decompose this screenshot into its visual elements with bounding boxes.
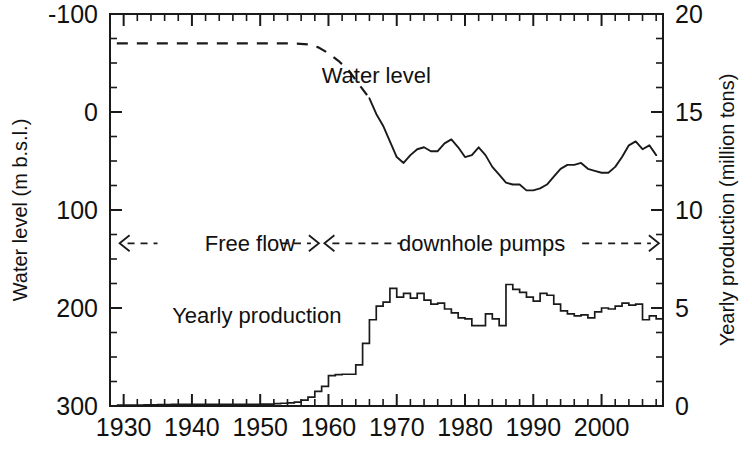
x-tick-label: 1990 <box>505 413 561 441</box>
y-tick-label-right: 0 <box>675 392 689 420</box>
x-tick-label: 2000 <box>574 413 630 441</box>
y-tick-label-left: 100 <box>56 196 98 224</box>
downhole-pumps-label: downhole pumps <box>399 231 565 256</box>
x-tick-label: 1970 <box>369 413 425 441</box>
y-tick-label-left: 0 <box>84 98 98 126</box>
y-axis-left-title: Water level (m b.s.l.) <box>9 119 31 302</box>
x-tick-label: 1980 <box>437 413 493 441</box>
x-tick-label: 1930 <box>96 413 152 441</box>
y-tick-label-right: 5 <box>675 294 689 322</box>
series-water-level-solid <box>369 98 656 190</box>
y-axis-right-title: Yearly production (million tons) <box>716 74 738 347</box>
y-tick-label-left: 300 <box>56 392 98 420</box>
y-tick-label-left: -100 <box>48 0 98 28</box>
x-tick-label: 1960 <box>301 413 357 441</box>
y-tick-label-right: 20 <box>675 0 703 28</box>
data-series-layer <box>117 43 663 405</box>
water-level-production-chart: 19301940195019601970198019902000-1000100… <box>0 0 752 450</box>
figure-page: 19301940195019601970198019902000-1000100… <box>0 0 752 450</box>
y-tick-label-right: 15 <box>675 98 703 126</box>
y-tick-label-left: 200 <box>56 294 98 322</box>
water-level-label: Water level <box>322 63 431 88</box>
yearly-production-label: Yearly production <box>172 303 341 328</box>
y-tick-label-right: 10 <box>675 196 703 224</box>
free-flow-label: Free flow <box>205 231 296 256</box>
x-tick-label: 1950 <box>232 413 288 441</box>
x-tick-label: 1940 <box>164 413 220 441</box>
